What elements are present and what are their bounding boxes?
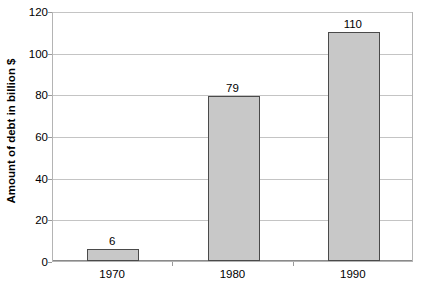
y-axis-tick-label: 80 [18,90,48,101]
bar [87,249,139,262]
y-axis-tick-mark [48,220,52,221]
gridline [53,12,412,13]
y-axis-tick-label: 20 [18,215,48,226]
y-axis-tick-mark [48,179,52,180]
y-axis-tick-mark [48,262,52,263]
bar [328,32,380,261]
bar [208,96,260,261]
x-axis-category-label: 1980 [172,268,292,281]
y-axis-tick-label: 60 [18,132,48,143]
bar-chart: Amount of debt in billion $ 020406080100… [0,0,425,296]
bar-value-label: 110 [327,18,379,30]
y-axis-tick-mark [48,54,52,55]
x-axis-category-label: 1970 [52,268,172,281]
y-axis-tick-label: 40 [18,173,48,184]
x-axis-tick-mark [293,262,294,266]
y-axis-tick-label: 0 [18,257,48,268]
y-axis-tick-labels: 020406080100120 [18,0,48,275]
y-axis-title: Amount of debt in billion $ [0,0,20,262]
y-axis-title-text: Amount of debt in billion $ [4,58,16,203]
bar-value-label: 79 [207,82,259,94]
plot-area [52,12,413,262]
y-axis-tick-mark [48,95,52,96]
y-axis-tick-mark [48,12,52,13]
x-axis-tick-mark [172,262,173,266]
y-axis-tick-label: 120 [18,7,48,18]
y-axis-tick-mark [48,137,52,138]
bar-value-label: 6 [86,235,138,247]
y-axis-tick-label: 100 [18,48,48,59]
x-axis-category-label: 1990 [293,268,413,281]
